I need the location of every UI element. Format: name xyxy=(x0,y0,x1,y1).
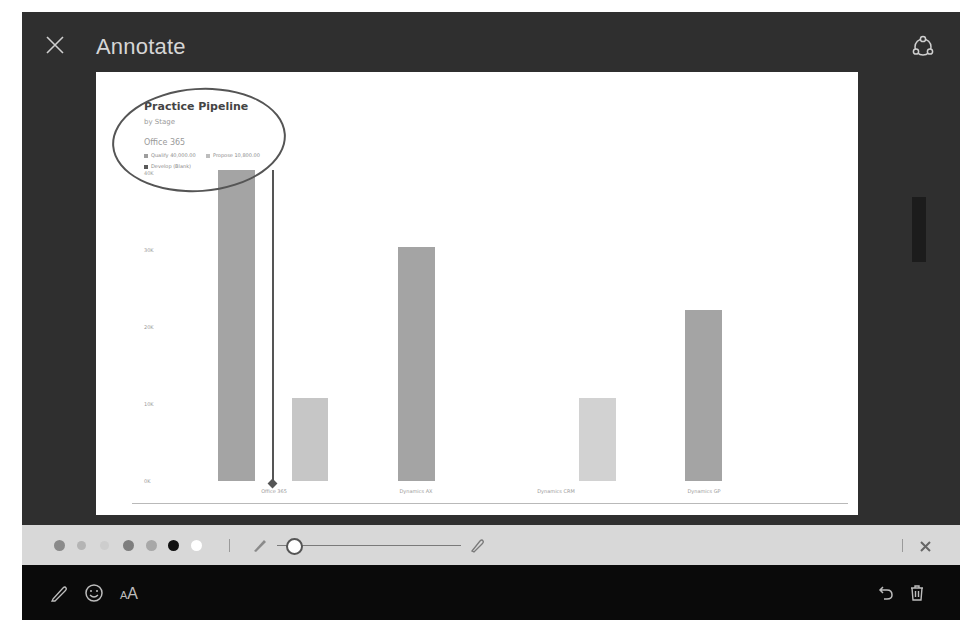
pen-button[interactable] xyxy=(252,537,268,557)
close-button[interactable] xyxy=(44,34,74,64)
color-swatch[interactable] xyxy=(54,540,65,551)
toolbar-separator xyxy=(229,539,230,552)
highlighter-button[interactable] xyxy=(469,537,485,557)
text-size-button[interactable]: AA xyxy=(120,585,138,603)
scrollbar-thumb[interactable] xyxy=(912,197,926,262)
color-swatch[interactable] xyxy=(146,540,157,551)
x-axis-line xyxy=(132,503,848,504)
delete-button[interactable] xyxy=(909,584,925,606)
bar-dynamicscrm-propose[interactable] xyxy=(579,398,616,481)
undo-icon xyxy=(878,585,894,601)
pen-tool-button[interactable] xyxy=(50,584,68,606)
ink-stroke-end xyxy=(268,479,278,489)
y-tick: 20K xyxy=(144,324,154,330)
ink-stroke-line xyxy=(272,170,274,483)
bar-dynamicsgp-qualify[interactable] xyxy=(685,310,722,481)
color-swatch[interactable] xyxy=(123,540,134,551)
color-swatch-selected[interactable] xyxy=(168,540,179,551)
bar-office365-qualify[interactable] xyxy=(218,170,255,481)
bottom-bar: AA xyxy=(22,565,960,620)
share-icon xyxy=(910,34,936,60)
stroke-size-slider-track[interactable] xyxy=(291,545,461,546)
color-swatch[interactable] xyxy=(191,540,202,551)
y-tick: 30K xyxy=(144,247,154,253)
text-size-big-glyph: A xyxy=(127,585,138,602)
ink-toolbar xyxy=(22,525,960,565)
page-title: Annotate xyxy=(96,34,186,60)
chart-card[interactable]: Practice Pipeline by Stage Office 365 Qu… xyxy=(96,72,858,515)
undo-button[interactable] xyxy=(878,585,894,605)
emoji-button[interactable] xyxy=(84,583,104,607)
share-button[interactable] xyxy=(910,34,938,62)
color-swatch[interactable] xyxy=(77,541,86,550)
y-tick: 0K xyxy=(144,478,150,484)
x-label: Dynamics CRM xyxy=(516,488,596,494)
ink-stroke-ellipse xyxy=(109,82,290,198)
x-label: Dynamics GP xyxy=(664,488,744,494)
pen-icon xyxy=(50,584,68,602)
bar-office365-propose[interactable] xyxy=(292,398,328,481)
color-swatch[interactable] xyxy=(100,541,109,550)
y-tick: 10K xyxy=(144,401,154,407)
close-toolbar-button[interactable] xyxy=(919,538,932,557)
close-icon xyxy=(44,34,66,56)
x-label: Dynamics AX xyxy=(376,488,456,494)
stroke-size-slider-thumb[interactable] xyxy=(286,538,303,555)
toolbar-separator xyxy=(902,539,903,552)
close-icon xyxy=(919,540,932,553)
emoji-icon xyxy=(84,583,104,603)
x-label: Office 365 xyxy=(234,488,314,494)
pen-icon xyxy=(252,537,268,553)
delete-icon xyxy=(909,584,925,602)
bar-dynamicsax-qualify[interactable] xyxy=(398,247,435,481)
highlighter-icon xyxy=(469,537,485,553)
title-bar: Annotate xyxy=(22,12,960,72)
annotate-window: Annotate Practice Pipeline by Stage Offi… xyxy=(22,12,960,620)
